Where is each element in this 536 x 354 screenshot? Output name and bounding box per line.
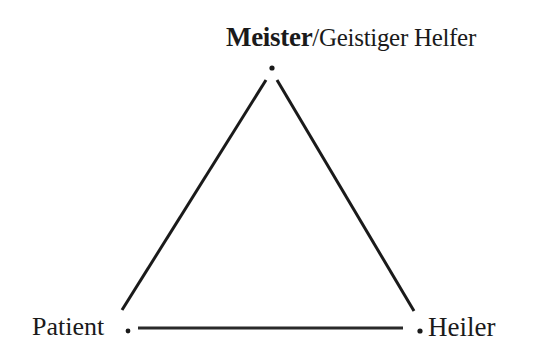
label-separator: / [312,24,319,51]
right-node-dot [417,328,422,333]
triangle-diagram [0,0,536,354]
top-node-dot [269,65,274,70]
master-label: Meister [226,22,312,52]
healer-label: Heiler [428,312,495,343]
edge-top-left [122,80,266,310]
edge-top-right [277,80,414,311]
patient-label: Patient [32,312,104,342]
spiritual-helper-label: Geistiger Helfer [319,24,476,51]
top-node-label: Meister/Geistiger Helfer [226,22,476,53]
left-node-dot [126,329,131,334]
